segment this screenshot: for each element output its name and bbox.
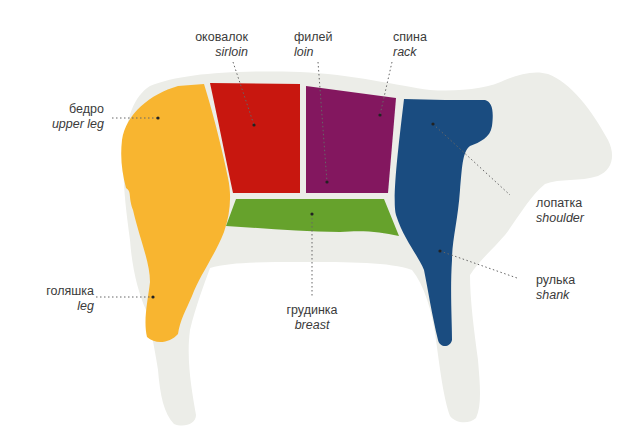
label-loin: филей loin: [294, 30, 333, 60]
label-breast-en: breast: [272, 318, 352, 333]
label-shoulder: лопатка shoulder: [536, 196, 584, 226]
label-shoulder-en: shoulder: [536, 211, 584, 226]
cut-upper-leg[interactable]: [121, 84, 230, 342]
label-leg: голяшка leg: [10, 284, 94, 314]
label-leg-en: leg: [10, 299, 94, 314]
label-upper-leg: бедро upper leg: [20, 102, 104, 132]
label-leg-ru: голяшка: [10, 284, 94, 299]
label-upper-leg-en: upper leg: [20, 117, 104, 132]
label-shank: рулька shank: [536, 273, 575, 303]
label-loin-en: loin: [294, 45, 333, 60]
label-shoulder-ru: лопатка: [536, 196, 584, 211]
label-sirloin-en: sirloin: [168, 45, 248, 60]
label-shank-en: shank: [536, 288, 575, 303]
label-breast: грудинка breast: [272, 303, 352, 333]
label-rack-ru: спина: [393, 30, 427, 45]
label-sirloin-ru: оковалок: [168, 30, 248, 45]
label-breast-ru: грудинка: [272, 303, 352, 318]
label-loin-ru: филей: [294, 30, 333, 45]
label-sirloin: оковалок sirloin: [168, 30, 248, 60]
label-rack: спина rack: [393, 30, 427, 60]
label-upper-leg-ru: бедро: [20, 102, 104, 117]
label-shank-ru: рулька: [536, 273, 575, 288]
label-rack-en: rack: [393, 45, 427, 60]
